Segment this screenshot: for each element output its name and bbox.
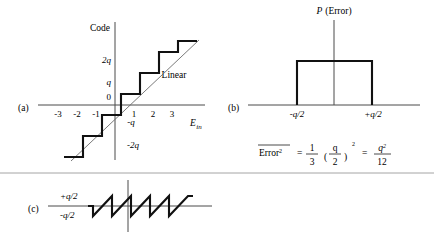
panel-a-y-axis-title: Code: [90, 23, 110, 33]
panel-a-x-axis-title-base: E: [189, 118, 196, 128]
panel-b-x-tick-left: -q/2: [290, 109, 305, 119]
equation-paren-exponent: 2: [352, 141, 355, 147]
panel-b-y-axis-title: P(Error): [315, 6, 351, 17]
equation-inner-numerator: q: [333, 143, 338, 153]
panel-c-sawtooth: [88, 196, 193, 216]
panel-b-y-axis-title-base: P: [315, 6, 322, 16]
panel-b: (b) P(Error) -q/2 +q/2: [228, 6, 420, 119]
panel-a-x-tick-neg1: -1: [92, 109, 100, 119]
panel-b-label: (b): [228, 103, 239, 114]
equation-frac2-numerator: q2: [378, 143, 386, 154]
equation-paren-open: (: [324, 152, 327, 163]
panel-a-y-tick-neg-2q: -2q: [127, 140, 139, 150]
panel-c-upper-label: +q/2: [60, 191, 78, 201]
figure-canvas: (a) Code Ein Linear 2q q 0 -q -2q -3 -2 …: [0, 0, 434, 246]
panel-c-label: (c): [28, 204, 39, 215]
equation-frac1-numerator: 1: [310, 143, 315, 153]
panel-c-lower-label: -q/2: [60, 210, 75, 220]
panel-a-y-tick-0: 0: [107, 92, 112, 102]
panel-a-x-tick-neg2: -2: [73, 109, 81, 119]
panel-a-y-tick-2q: 2q: [102, 55, 112, 65]
equation-lhs-exponent: 2: [279, 148, 282, 154]
equation-lhs: Error2: [259, 148, 282, 159]
panel-a-x-tick-1: 1: [132, 109, 137, 119]
panel-a-x-tick-3: 3: [170, 109, 175, 119]
equation-block: Error2 = 1 3 ( q 2 ) 2 = q2 12: [258, 141, 391, 167]
equation-frac1-denominator: 3: [310, 157, 315, 167]
equation-lhs-base: Error: [259, 148, 280, 158]
panel-a-y-tick-q: q: [107, 77, 112, 87]
panel-b-y-axis-title-rest: (Error): [325, 6, 351, 17]
equation-inner-denominator: 2: [333, 157, 338, 167]
panel-a: (a) Code Ein Linear 2q q 0 -q -2q -3 -2 …: [18, 22, 205, 161]
panel-b-x-tick-right: +q/2: [364, 109, 382, 119]
panel-a-label: (a): [18, 103, 29, 114]
equation-paren-close: ): [344, 152, 347, 163]
panel-a-x-axis-title-sub: in: [196, 123, 202, 131]
equation-frac2-denominator: 12: [377, 157, 387, 167]
equation-equals-1: =: [297, 148, 302, 158]
equation-frac2-num-exponent: 2: [383, 143, 386, 149]
panel-a-x-tick-neg3: -3: [54, 109, 62, 119]
equation-equals-2: =: [362, 148, 367, 158]
panel-c: (c) +q/2 -q/2: [28, 180, 212, 232]
panel-a-x-axis-title: Ein: [189, 118, 202, 131]
panel-a-x-tick-2: 2: [151, 109, 156, 119]
figure-root: (a) Code Ein Linear 2q q 0 -q -2q -3 -2 …: [0, 0, 434, 246]
